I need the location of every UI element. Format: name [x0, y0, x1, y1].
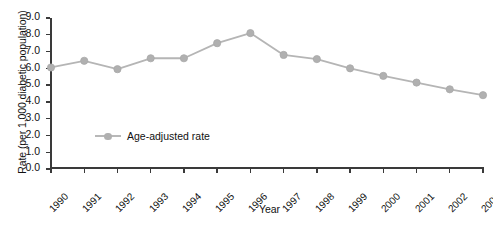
x-axis-tick [482, 169, 483, 173]
x-axis-tick-label: 1994 [195, 175, 219, 199]
data-point-marker [413, 79, 420, 86]
x-axis-tick-label: 1992 [129, 175, 153, 199]
data-point-marker [446, 86, 453, 93]
x-axis-tick [150, 169, 151, 173]
y-axis-tick-label: 1.0 [25, 145, 40, 157]
legend-marker-icon [95, 131, 121, 141]
x-axis-tick-label: 1999 [362, 175, 386, 199]
x-axis-tick [316, 169, 317, 173]
data-point-marker [280, 51, 287, 58]
data-point-marker [147, 55, 154, 62]
data-point-marker [313, 56, 320, 63]
data-point-marker [47, 64, 54, 71]
series-age-adjusted-rate [50, 18, 484, 169]
x-axis-tick-label: 2001 [428, 175, 452, 199]
data-point-marker [114, 66, 121, 73]
y-axis-tick-label: 5.0 [25, 77, 40, 89]
x-axis-tick-label: 1995 [229, 175, 253, 199]
x-axis-tick [84, 169, 85, 173]
data-point-marker [247, 30, 254, 37]
x-axis-tick-label: 1990 [63, 175, 87, 199]
x-axis-tick-label: 1991 [96, 175, 120, 199]
data-point-marker [479, 92, 486, 99]
y-axis-tick-label: 0.0 [25, 161, 40, 173]
x-axis-tick [283, 169, 284, 173]
x-axis-tick-label: 2000 [395, 175, 419, 199]
chart-legend: Age-adjusted rate [95, 130, 210, 142]
plot-area: 9.08.07.06.05.04.03.02.01.00.0 199019911… [50, 18, 484, 169]
data-point-marker [380, 72, 387, 79]
x-axis-tick [250, 169, 251, 173]
x-axis-tick-label: 1998 [328, 175, 352, 199]
x-axis-tick [383, 169, 384, 173]
y-axis-tick-label: 4.0 [25, 94, 40, 106]
x-axis-tick [183, 169, 184, 173]
legend-item-label: Age-adjusted rate [127, 130, 210, 142]
data-point-marker [180, 55, 187, 62]
y-axis-tick-label: 8.0 [25, 27, 40, 39]
x-axis-title-text: Year [213, 203, 280, 215]
x-axis-tick [216, 169, 217, 173]
y-axis-tick-label: 3.0 [25, 111, 40, 123]
y-axis-tick-label: 7.0 [25, 44, 40, 56]
x-axis-tick-label: 1993 [162, 175, 186, 199]
x-axis-tick [449, 169, 450, 173]
line-chart: Rate (per 1,000 diabetic population) 9.0… [0, 0, 493, 225]
y-axis-tick-label: 6.0 [25, 61, 40, 73]
x-axis-tick-label: 2002 [461, 175, 485, 199]
data-point-marker [81, 57, 88, 64]
x-axis-tick [349, 169, 350, 173]
data-point-marker [214, 40, 221, 47]
y-axis-tick-label: 9.0 [25, 10, 40, 22]
x-axis-tick-label: 1997 [295, 175, 319, 199]
y-axis-tick-label: 2.0 [25, 128, 40, 140]
x-axis-tick [50, 169, 51, 173]
x-axis-tick [117, 169, 118, 173]
data-point-marker [346, 65, 353, 72]
x-axis-tick-label: 1996 [262, 175, 286, 199]
x-axis-title: Year [0, 203, 493, 215]
x-axis-tick [416, 169, 417, 173]
